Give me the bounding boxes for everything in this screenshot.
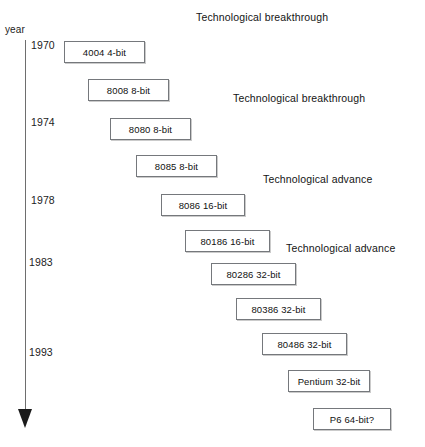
- annotation-label: Technological breakthrough: [233, 92, 365, 104]
- timeline-node-box: 8086 16-bit: [161, 194, 245, 216]
- year-tick-1970: 1970: [31, 39, 55, 51]
- timeline-node-box: 80486 32-bit: [262, 333, 347, 355]
- timeline-node-box: 4004 4-bit: [64, 41, 145, 63]
- annotation-label: Technological advance: [263, 173, 372, 185]
- year-tick-1983: 1983: [29, 256, 53, 268]
- timeline-axis-line: [25, 40, 26, 415]
- year-tick-1993: 1993: [29, 346, 53, 358]
- timeline-node-box: 8085 8-bit: [136, 155, 217, 177]
- processor-timeline-figure: year 1970 1974 1978 1983 1993 4004 4-bit…: [0, 0, 425, 447]
- year-tick-1978: 1978: [31, 194, 55, 206]
- timeline-node-box: 80286 32-bit: [211, 263, 296, 285]
- timeline-node-box: P6 64-bit?: [313, 408, 391, 430]
- timeline-node-box: Pentium 32-bit: [288, 370, 370, 392]
- timeline-node-box: 8080 8-bit: [110, 118, 191, 140]
- annotation-label: Technological advance: [286, 242, 395, 254]
- timeline-node-box: 80186 16-bit: [185, 230, 270, 252]
- timeline-node-box: 80386 32-bit: [236, 298, 321, 320]
- year-tick-1974: 1974: [31, 116, 55, 128]
- axis-title: year: [5, 24, 25, 35]
- annotation-label: Technological breakthrough: [196, 11, 328, 23]
- timeline-arrow-icon: [18, 409, 32, 428]
- timeline-node-box: 8008 8-bit: [88, 79, 169, 101]
